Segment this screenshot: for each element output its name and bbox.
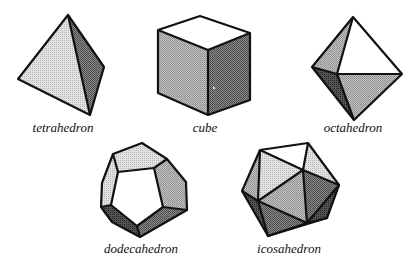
dodecahedron-label: dodecahedron (104, 241, 178, 257)
dodecahedron-shape (101, 143, 187, 237)
tetrahedron-label: tetrahedron (33, 120, 94, 136)
tetrahedron-shape (18, 15, 104, 115)
octahedron-shape (312, 17, 402, 120)
icosahedron-label: icosahedron (257, 241, 321, 257)
cube-shape (158, 16, 250, 115)
octahedron-label: octahedron (324, 120, 383, 136)
octahedron-face-lower-front (337, 74, 402, 120)
icosahedron-shape (242, 143, 339, 236)
cube-label: cube (193, 120, 218, 136)
